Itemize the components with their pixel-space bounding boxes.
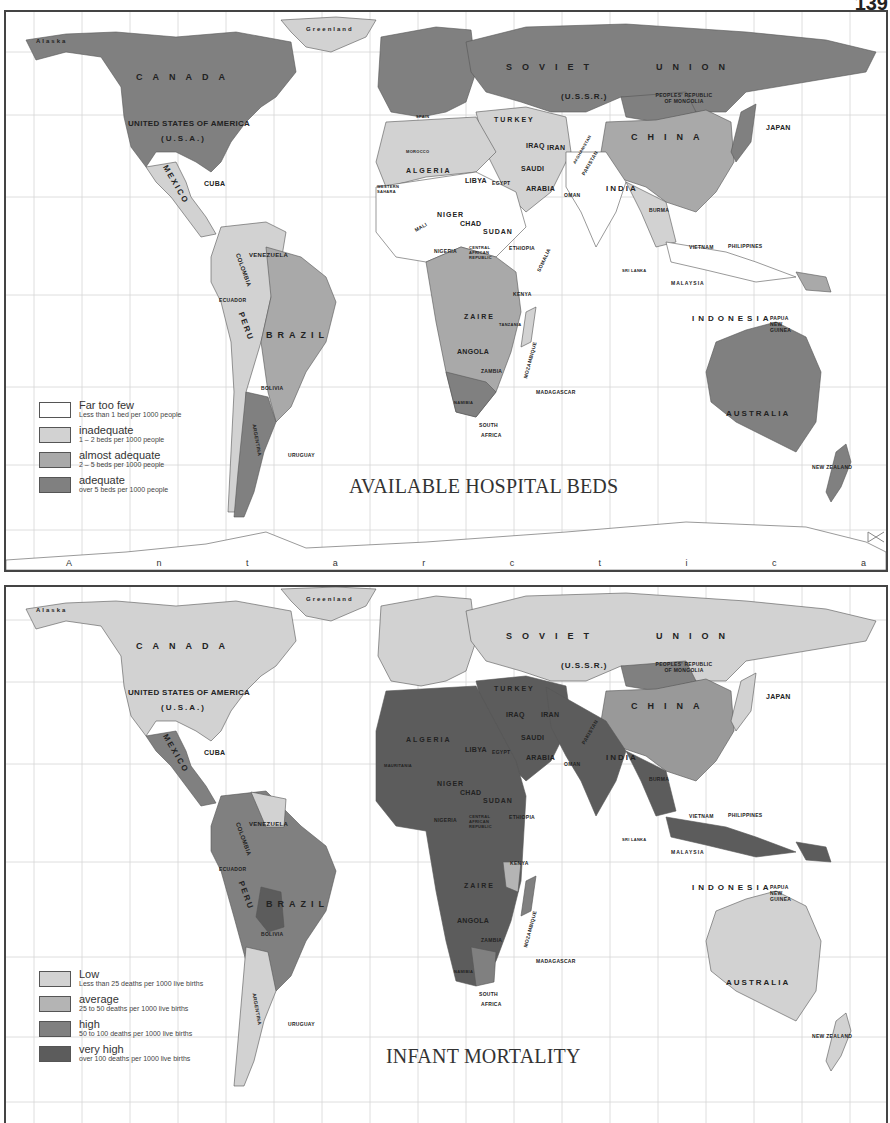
antarctica-letter: c xyxy=(772,558,777,568)
legend-label: very high xyxy=(79,1044,190,1055)
label-ecuador: ECUADOR xyxy=(219,297,246,303)
label-madagascar: MADAGASCAR xyxy=(536,389,576,395)
label-sri-lanka: SRI LANKA xyxy=(622,268,646,273)
legend-description: 2 – 5 beds per 1000 people xyxy=(79,461,164,469)
label-iran: IRAN xyxy=(547,144,565,151)
legend-description: 25 to 50 deaths per 1000 live births xyxy=(79,1005,188,1013)
label-algeria: ALGERIA xyxy=(406,167,452,174)
label-vietnam: VIETNAM xyxy=(689,244,714,250)
label-mongolia: PEOPLES' REPUBLIC OF MONGOLIA xyxy=(654,661,714,673)
label-niger: NIGER xyxy=(437,211,464,218)
legend-description: Less than 1 bed per 1000 people xyxy=(79,411,181,419)
label-ethiopia: ETHIOPIA xyxy=(509,245,535,251)
label-india: INDIA xyxy=(606,184,638,193)
label-zaire: ZAIRE xyxy=(464,313,495,320)
label-kenya: KENYA xyxy=(510,860,529,866)
antarctica-letter: a xyxy=(333,558,338,568)
label-china: CHINA xyxy=(631,701,710,711)
label-angola: ANGOLA xyxy=(457,348,489,355)
label-libya: LIBYA xyxy=(465,177,487,184)
label-namibia: NAMIBIA xyxy=(454,400,473,405)
legend-item: inadequate1 – 2 beds per 1000 people xyxy=(39,425,181,450)
legend-item: average25 to 50 deaths per 1000 live bir… xyxy=(39,994,203,1019)
label-venezuela: VENEZUELA xyxy=(249,252,288,258)
legend: LowLess than 25 deaths per 1000 live bir… xyxy=(39,969,203,1069)
legend-swatch xyxy=(39,427,71,443)
legend-description: over 5 beds per 1000 people xyxy=(79,486,168,494)
legend-label: inadequate xyxy=(79,425,164,436)
label-malaysia: MALAYSIA xyxy=(671,280,705,286)
label-saudi: SAUDI xyxy=(521,734,544,741)
legend: Far too fewLess than 1 bed per 1000 peop… xyxy=(39,400,181,500)
label-turkey: TURKEY xyxy=(494,685,535,692)
label-iraq: IRAQ xyxy=(506,711,525,718)
label-alaska: Alaska xyxy=(36,38,67,44)
label-sudan: SUDAN xyxy=(483,228,513,235)
label-tanzania: TANZANIA xyxy=(499,322,522,327)
antarctica-letter: a xyxy=(861,558,866,568)
legend-swatch xyxy=(39,996,71,1012)
antarctica-letter: i xyxy=(686,558,688,568)
label-mongolia: PEOPLES' REPUBLIC OF MONGOLIA xyxy=(654,92,714,104)
label-uruguay: URUGUAY xyxy=(288,1021,315,1027)
infant-mortality-map: Alaska Greenland CANADA UNITED STATES OF… xyxy=(4,585,888,1123)
hospital-beds-map: Alaska Greenland CANADA UNITED STATES OF… xyxy=(4,10,888,572)
label-indonesia: INDONESIA xyxy=(692,314,772,323)
label-nigeria: NIGERIA xyxy=(434,248,457,254)
legend-item: adequateover 5 beds per 1000 people xyxy=(39,475,181,500)
label-egypt: EGYPT xyxy=(492,180,510,186)
legend-swatch xyxy=(39,971,71,987)
label-zambia: ZAMBIA xyxy=(481,368,502,374)
label-chad: CHAD xyxy=(460,789,481,796)
label-malaysia: MALAYSIA xyxy=(671,849,705,855)
label-union: UNION xyxy=(656,62,735,72)
label-alaska: Alaska xyxy=(36,607,67,613)
legend-description: 50 to 100 deaths per 1000 live births xyxy=(79,1030,192,1038)
legend-label: Low xyxy=(79,969,203,980)
label-philippines: PHILIPPINES xyxy=(728,812,762,818)
label-namibia: NAMIBIA xyxy=(454,969,473,974)
legend-description: 1 – 2 beds per 1000 people xyxy=(79,436,164,444)
label-ussr: (U.S.S.R.) xyxy=(561,92,607,101)
label-usa: UNITED STATES OF AMERICA xyxy=(128,688,250,697)
label-car: CENTRAL AFRICAN REPUBLIC xyxy=(469,814,494,829)
label-usa-abbr: (U.S.A.) xyxy=(161,134,206,143)
label-papua: PAPUA NEW GUINEA xyxy=(770,884,800,902)
label-south-africa-1: SOUTH xyxy=(479,991,498,997)
label-australia: AUSTRALIA xyxy=(726,409,790,418)
label-turkey: TURKEY xyxy=(494,116,535,123)
legend-swatch xyxy=(39,1046,71,1062)
label-kenya: KENYA xyxy=(513,291,532,297)
label-indonesia: INDONESIA xyxy=(692,883,772,892)
label-japan: JAPAN xyxy=(766,124,791,131)
label-iran: IRAN xyxy=(541,711,559,718)
legend-label: high xyxy=(79,1019,192,1030)
label-new-zealand: NEW ZEALAND xyxy=(812,1033,852,1039)
label-south-africa-2: AFRICA xyxy=(481,1001,502,1007)
legend-item: very highover 100 deaths per 1000 live b… xyxy=(39,1044,203,1069)
label-south-africa-2: AFRICA xyxy=(481,432,502,438)
legend-item: high50 to 100 deaths per 1000 live birth… xyxy=(39,1019,203,1044)
label-greenland: Greenland xyxy=(306,26,354,32)
label-chad: CHAD xyxy=(460,220,481,227)
label-uruguay: URUGUAY xyxy=(288,452,315,458)
map-title: INFANT MORTALITY xyxy=(386,1045,581,1068)
label-zambia: ZAMBIA xyxy=(481,937,502,943)
label-western-sahara: WESTERN SAHARA xyxy=(377,184,399,194)
label-cuba: CUBA xyxy=(204,180,225,187)
label-new-zealand: NEW ZEALAND xyxy=(812,464,852,470)
legend-description: over 100 deaths per 1000 live births xyxy=(79,1055,190,1063)
label-ethiopia: ETHIOPIA xyxy=(509,814,535,820)
legend-label: adequate xyxy=(79,475,168,486)
label-south-africa-1: SOUTH xyxy=(479,422,498,428)
label-australia: AUSTRALIA xyxy=(726,978,790,987)
antarctica-letter: t xyxy=(599,558,602,568)
legend-swatch xyxy=(39,402,71,418)
label-brazil: BRAZIL xyxy=(266,330,329,340)
label-union: UNION xyxy=(656,631,735,641)
label-angola: ANGOLA xyxy=(457,917,489,924)
label-spain: SPAIN xyxy=(416,114,429,119)
label-arabia: ARABIA xyxy=(526,754,555,761)
label-algeria: ALGERIA xyxy=(406,736,452,743)
label-cuba: CUBA xyxy=(204,749,225,756)
